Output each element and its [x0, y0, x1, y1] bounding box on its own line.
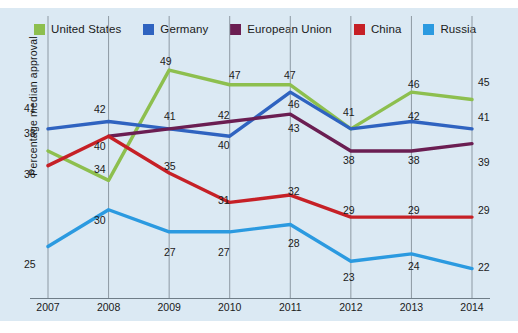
- data-label-germany-2013: 42: [408, 111, 420, 122]
- legend-item-label: China: [371, 23, 402, 35]
- data-label-germany-2010: 40: [218, 140, 230, 151]
- legend-swatch-russia: [423, 24, 434, 35]
- data-label-russia-2010: 27: [218, 247, 230, 258]
- data-label-china-2011: 32: [288, 186, 300, 197]
- data-label-russia-2009: 27: [164, 247, 176, 258]
- legend-item-label: European Union: [247, 23, 332, 35]
- data-label-european-union-2010: 42: [218, 110, 230, 121]
- data-label-european-union-2014: 39: [478, 157, 490, 168]
- data-label-united-states-2011: 47: [284, 70, 296, 81]
- legend-item[interactable]: Germany: [143, 23, 208, 35]
- legend-item[interactable]: China: [354, 23, 402, 35]
- data-label-european-union-2013: 38: [408, 155, 420, 166]
- chart-root: United StatesGermanyEuropean UnionChinaR…: [0, 0, 518, 333]
- data-label-european-union-2012: 38: [343, 155, 355, 166]
- data-label-united-states-2012: 41: [343, 107, 355, 118]
- data-label-russia-2014: 22: [478, 262, 490, 273]
- data-label-china-2008: 40: [94, 141, 106, 152]
- data-label-united-states-2008: 34: [94, 164, 106, 175]
- legend-item-label: Germany: [160, 23, 208, 35]
- x-tick-label-2010: 2010: [208, 301, 252, 313]
- x-tick-label-2013: 2013: [389, 301, 433, 313]
- legend-item-label: United States: [51, 23, 121, 35]
- data-label-china-2012: 29: [343, 205, 355, 216]
- data-label-united-states-2013: 46: [408, 79, 420, 90]
- data-label-united-states-2014: 45: [478, 77, 490, 88]
- legend-swatch-china: [354, 24, 365, 35]
- x-tick-label-2012: 2012: [329, 301, 373, 313]
- legend-swatch-germany: [143, 24, 154, 35]
- x-tick-label-2007: 2007: [26, 301, 70, 313]
- data-label-china-2014: 29: [478, 205, 490, 216]
- data-label-china-2007: 36: [24, 169, 36, 180]
- x-axis-line: [30, 298, 490, 299]
- data-label-china-2009: 35: [164, 161, 176, 172]
- data-label-germany-2007: 41: [24, 103, 36, 114]
- data-label-germany-2008: 42: [94, 104, 106, 115]
- legend-item-label: Russia: [440, 23, 476, 35]
- data-label-russia-2012: 23: [343, 272, 355, 283]
- data-label-russia-2007: 25: [24, 259, 36, 270]
- x-tick-label-2011: 2011: [268, 301, 312, 313]
- data-label-european-union-2011: 43: [288, 123, 300, 134]
- data-label-germany-2009: 41: [164, 111, 176, 122]
- x-tick-label-2008: 2008: [87, 301, 131, 313]
- legend-item[interactable]: Russia: [423, 23, 476, 35]
- data-label-united-states-2007: 38: [24, 128, 36, 139]
- data-label-china-2010: 31: [218, 195, 230, 206]
- chart-legend: United StatesGermanyEuropean UnionChinaR…: [0, 18, 518, 40]
- data-label-russia-2011: 28: [288, 238, 300, 249]
- x-tick-label-2009: 2009: [147, 301, 191, 313]
- data-label-russia-2008: 30: [94, 215, 106, 226]
- data-label-germany-2011: 46: [288, 99, 300, 110]
- data-label-united-states-2010: 47: [229, 70, 241, 81]
- legend-swatch-european-union: [230, 24, 241, 35]
- data-label-china-2013: 29: [408, 205, 420, 216]
- data-label-russia-2013: 24: [408, 261, 420, 272]
- data-label-germany-2014: 41: [478, 112, 490, 123]
- data-label-united-states-2009: 49: [160, 56, 172, 67]
- x-tick-label-2014: 2014: [450, 301, 494, 313]
- legend-item[interactable]: European Union: [230, 23, 332, 35]
